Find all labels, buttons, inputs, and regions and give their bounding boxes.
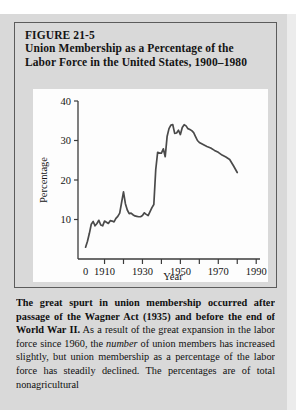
chart-axes — [78, 101, 260, 259]
x-axis-ticks — [105, 259, 257, 264]
y-tick-label: 40 — [61, 96, 72, 107]
x-tick-label: 1910 — [94, 266, 115, 277]
figure-caption: The great spurt in union membership occu… — [16, 296, 275, 410]
x-axis-label: Year — [163, 271, 183, 282]
x-tick-label: 1970 — [208, 266, 229, 277]
figure-number: FIGURE 21-5 — [25, 29, 269, 42]
x-tick-label: 1990 — [246, 266, 267, 277]
chart-plot-panel: 10203040 019101930195019701990 Percentag… — [33, 89, 268, 282]
figure-title-line-1: Union Membership as a Percentage of the — [25, 42, 269, 56]
y-axis-label: Percentage — [38, 157, 49, 203]
line-chart-svg: 10203040 019101930195019701990 Percentag… — [33, 89, 268, 282]
figure-header: FIGURE 21-5 Union Membership as a Percen… — [25, 29, 269, 69]
caption-paragraph: The great spurt in union membership occu… — [16, 296, 275, 391]
figure-title-line-2: Labor Force in the United States, 1900–1… — [25, 56, 269, 70]
y-tick-label: 30 — [61, 135, 72, 146]
figure-box: FIGURE 21-5 Union Membership as a Percen… — [14, 22, 277, 288]
x-tick-label: 0 — [83, 266, 88, 277]
caption-emphasis: number — [106, 338, 137, 349]
page-right-gutter — [287, 14, 296, 410]
page-canvas: FIGURE 21-5 Union Membership as a Percen… — [0, 0, 296, 410]
y-tick-label: 10 — [61, 214, 72, 225]
x-tick-label: 1930 — [132, 266, 153, 277]
y-tick-label: 20 — [61, 175, 72, 186]
data-series-line — [86, 125, 238, 247]
y-axis-tick-labels: 10203040 — [61, 96, 72, 226]
